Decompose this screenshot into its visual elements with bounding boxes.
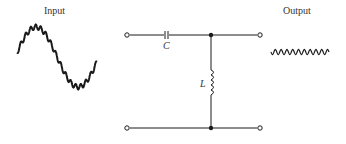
output-terminal-top: [258, 33, 262, 37]
input-terminal-top: [125, 33, 129, 37]
input-terminal-bottom: [125, 126, 129, 130]
circuit-drawing: [0, 0, 346, 144]
inductor-coil: [211, 70, 214, 95]
input-waveform: [17, 25, 97, 90]
high-pass-filter-diagram: Input Output C L: [0, 0, 346, 144]
junction-dot-bottom: [209, 126, 213, 130]
output-terminal-bottom: [258, 126, 262, 130]
junction-dot-top: [209, 33, 213, 37]
output-waveform: [271, 50, 329, 55]
